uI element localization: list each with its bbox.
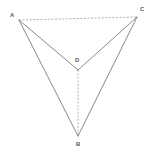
vertex-label-c: C [140,6,144,12]
geometry-canvas [0,0,151,152]
vertex-label-b: B [76,141,80,147]
edge-a-d [19,20,78,70]
edge-a-b [19,20,78,136]
edge-a-c [19,17,137,20]
geometry-figure: A C D B [0,0,151,152]
vertex-label-a: A [10,12,14,18]
vertex-label-d: D [75,57,79,63]
edge-c-b [78,17,137,136]
edge-c-d [78,17,137,70]
